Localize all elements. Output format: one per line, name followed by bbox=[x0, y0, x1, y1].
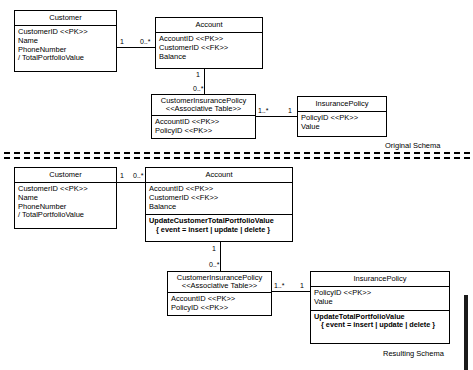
class-attributes-customer: CustomerID <<PK>> Name PhoneNumber / Tot… bbox=[15, 183, 116, 223]
multiplicity-cip-zero-many: 0..* bbox=[209, 261, 220, 268]
label-original-schema: Original Schema bbox=[385, 142, 440, 150]
class-attributes-account: AccountID <<PK>> CustomerID <<FK>> Balan… bbox=[156, 33, 262, 65]
multiplicity-account-one: 1 bbox=[212, 245, 216, 252]
class-title-customerinsurancepolicy: CustomerInsurancePolicy <<Associative Ta… bbox=[168, 272, 271, 293]
class-attributes-customerinsurancepolicy: AccountID <<PK>> PolicyID <<PK>> bbox=[152, 116, 255, 139]
attribute-row: PolicyID <<PK>> bbox=[171, 304, 268, 313]
class-title-customer: Customer bbox=[15, 11, 116, 26]
attribute-row: / TotalPortfolioValue bbox=[18, 54, 113, 63]
multiplicity-insurancepolicy-one: 1 bbox=[300, 282, 304, 289]
association-cip-insurancepolicy-resulting bbox=[272, 291, 310, 292]
operation-event-clause: { event = insert | update | delete } bbox=[149, 226, 289, 235]
class-title-insurancepolicy: InsurancePolicy bbox=[298, 97, 386, 112]
multiplicity-cip-zero-many: 0..* bbox=[193, 85, 204, 92]
multiplicity-account-zero-many: 0..* bbox=[133, 172, 144, 179]
label-resulting-schema: Resulting Schema bbox=[383, 350, 444, 358]
class-box-insurancepolicy-original: InsurancePolicy PolicyID <<PK>> Value bbox=[297, 96, 387, 137]
attribute-row: Balance bbox=[159, 53, 259, 62]
class-box-customerinsurancepolicy-original: CustomerInsurancePolicy <<Associative Ta… bbox=[151, 94, 256, 139]
attribute-row: Value bbox=[314, 298, 446, 307]
attribute-row: PolicyID <<PK>> bbox=[314, 289, 446, 298]
class-attributes-insurancepolicy: PolicyID <<PK>> Value bbox=[298, 112, 386, 135]
class-operations-insurancepolicy: UpdateTotalPortfolioValue { event = inse… bbox=[311, 310, 449, 334]
association-account-cip-original bbox=[204, 69, 205, 94]
class-title-insurancepolicy: InsurancePolicy bbox=[311, 272, 449, 287]
class-box-customer-resulting: Customer CustomerID <<PK>> Name PhoneNum… bbox=[14, 167, 117, 229]
class-title-customer: Customer bbox=[15, 168, 116, 183]
class-box-customerinsurancepolicy-resulting: CustomerInsurancePolicy <<Associative Ta… bbox=[167, 271, 272, 316]
multiplicity-cip-one-many: 1..* bbox=[258, 107, 269, 114]
association-customer-account-original bbox=[117, 47, 155, 48]
class-stereotype-associative: <<Associative Table>> bbox=[154, 105, 253, 113]
class-box-account-resulting: Account AccountID <<PK>> CustomerID <<FK… bbox=[145, 167, 293, 242]
attribute-row: Balance bbox=[149, 203, 289, 212]
multiplicity-insurancepolicy-one: 1 bbox=[288, 107, 292, 114]
class-stereotype-associative: <<Associative Table>> bbox=[170, 282, 269, 290]
class-attributes-insurancepolicy: PolicyID <<PK>> Value bbox=[311, 287, 449, 310]
separator-dash-top bbox=[4, 152, 470, 154]
association-customer-account-resulting bbox=[117, 182, 145, 183]
diagram-canvas: Customer CustomerID <<PK>> Name PhoneNum… bbox=[0, 0, 473, 370]
class-operations-account: UpdateCustomerTotalPortfolioValue { even… bbox=[146, 214, 292, 238]
class-box-insurancepolicy-resulting: InsurancePolicy PolicyID <<PK>> Value Up… bbox=[310, 271, 450, 344]
separator-dash-bottom bbox=[4, 157, 470, 159]
class-attributes-customer: CustomerID <<PK>> Name PhoneNumber / Tot… bbox=[15, 26, 116, 66]
attribute-row: Value bbox=[301, 123, 383, 132]
multiplicity-customer-one: 1 bbox=[120, 38, 124, 45]
multiplicity-customer-one: 1 bbox=[120, 172, 124, 179]
operation-event-clause: { event = insert | update | delete } bbox=[314, 321, 446, 330]
multiplicity-account-one: 1 bbox=[196, 71, 200, 78]
class-box-customer-original: Customer CustomerID <<PK>> Name PhoneNum… bbox=[14, 10, 117, 72]
schema-separator bbox=[4, 152, 470, 159]
class-box-account-original: Account AccountID <<PK>> CustomerID <<FK… bbox=[155, 17, 263, 69]
class-attributes-customerinsurancepolicy: AccountID <<PK>> PolicyID <<PK>> bbox=[168, 293, 271, 316]
attribute-row: / TotalPortfolioValue bbox=[18, 211, 113, 220]
class-title-customerinsurancepolicy: CustomerInsurancePolicy <<Associative Ta… bbox=[152, 95, 255, 116]
association-account-cip-resulting bbox=[220, 242, 221, 271]
class-title-account: Account bbox=[156, 18, 262, 33]
attribute-row: PolicyID <<PK>> bbox=[155, 127, 252, 136]
multiplicity-cip-one-many: 1..* bbox=[274, 282, 285, 289]
page-edge-strip bbox=[464, 295, 468, 370]
multiplicity-account-zero-many: 0..* bbox=[140, 38, 151, 45]
association-cip-insurancepolicy-original bbox=[256, 116, 297, 117]
class-attributes-account: AccountID <<PK>> CustomerID <<FK>> Balan… bbox=[146, 183, 292, 215]
class-title-account: Account bbox=[146, 168, 292, 183]
